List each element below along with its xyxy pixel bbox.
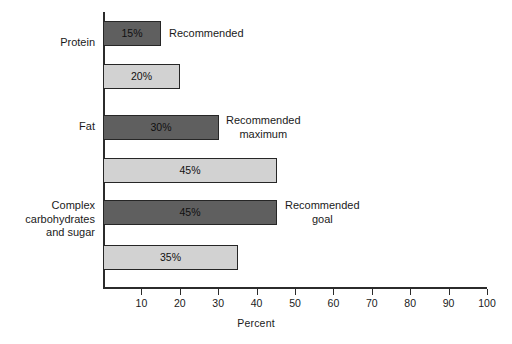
annotation-recommended-maximum: Recommended maximum bbox=[226, 114, 301, 141]
bar-value-label: 35% bbox=[160, 252, 181, 263]
x-axis-tick-label: 100 bbox=[467, 297, 507, 309]
bar-chart: 102030405060708090100 Percent Protein Fa… bbox=[0, 0, 512, 344]
x-axis-tick bbox=[141, 289, 142, 295]
x-axis-tick-label: 80 bbox=[390, 297, 430, 309]
x-axis-tick bbox=[257, 289, 258, 295]
x-axis-tick bbox=[410, 289, 411, 295]
x-axis-tick bbox=[218, 289, 219, 295]
bar-value-label: 20% bbox=[131, 71, 152, 82]
category-label-carbohydrates: Complex carbohydrates and sugar bbox=[25, 199, 95, 240]
bar-fat-recommended[interactable]: 30% bbox=[103, 115, 219, 140]
bar-value-label: 45% bbox=[179, 207, 200, 218]
bar-carbohydrates-current[interactable]: 35% bbox=[103, 245, 238, 270]
x-axis-tick bbox=[487, 289, 488, 295]
bar-protein-recommended[interactable]: 15% bbox=[103, 21, 161, 46]
x-axis-tick bbox=[372, 289, 373, 295]
bar-carbohydrates-recommended[interactable]: 45% bbox=[103, 200, 277, 225]
bar-value-label: 45% bbox=[179, 165, 200, 176]
bar-value-label: 30% bbox=[150, 122, 171, 133]
x-axis-tick-label: 20 bbox=[160, 297, 200, 309]
bar-value-label: 15% bbox=[121, 28, 142, 39]
x-axis-tick-label: 50 bbox=[275, 297, 315, 309]
x-axis-tick-label: 70 bbox=[352, 297, 392, 309]
category-label-fat: Fat bbox=[79, 120, 95, 134]
annotation-recommended-goal: Recommended goal bbox=[285, 199, 360, 226]
bar-protein-current[interactable]: 20% bbox=[103, 64, 180, 89]
x-axis-tick-label: 40 bbox=[237, 297, 277, 309]
x-axis-title: Percent bbox=[0, 317, 512, 329]
x-axis-tick bbox=[333, 289, 334, 295]
x-axis-tick-label: 90 bbox=[429, 297, 469, 309]
x-axis-tick bbox=[295, 289, 296, 295]
x-axis-tick-label: 30 bbox=[198, 297, 238, 309]
annotation-recommended: Recommended bbox=[169, 27, 244, 41]
x-axis-tick bbox=[180, 289, 181, 295]
bar-fat-current[interactable]: 45% bbox=[103, 158, 277, 183]
x-axis-tick-label: 10 bbox=[121, 297, 161, 309]
category-label-protein: Protein bbox=[60, 36, 95, 50]
x-axis-tick bbox=[449, 289, 450, 295]
x-axis-tick-label: 60 bbox=[313, 297, 353, 309]
